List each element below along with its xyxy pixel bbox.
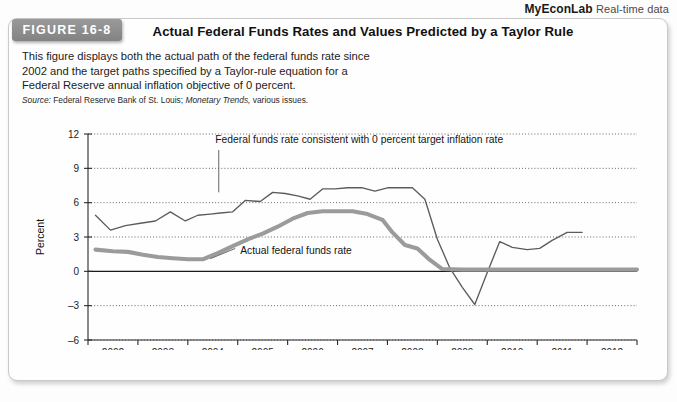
x-tick-label-2010: 2010: [501, 347, 524, 350]
gridlines: [88, 134, 637, 340]
source-text-b: various issues.: [253, 95, 308, 105]
figure-description: This figure displays both the actual pat…: [22, 49, 442, 93]
x-tick-label-2005: 2005: [252, 347, 275, 350]
figure-page: MyEconLab Real-time data FIGURE 16-8 Act…: [0, 0, 677, 402]
myeconlab-brand: MyEconLab: [525, 2, 593, 16]
x-tick-label-2007: 2007: [351, 347, 374, 350]
x-tick-label-2006: 2006: [301, 347, 324, 350]
x-tick-label-2002: 2002: [102, 347, 125, 350]
description-line-2: 2002 and the target paths specified by a…: [22, 64, 442, 79]
annotation-taylor-rule-label: Federal funds rate consistent with 0 per…: [215, 134, 503, 145]
myeconlab-realtime-label: Real-time data: [596, 3, 669, 15]
source-text-a: Federal Reserve Bank of St. Louis;: [53, 95, 183, 105]
myeconlab-label: MyEconLab Real-time data: [525, 2, 669, 16]
series-actual-federal-funds-rate: [95, 211, 637, 269]
x-tick-label-2008: 2008: [401, 347, 424, 350]
figure-number-badge: FIGURE 16-8: [12, 19, 122, 41]
y-tick-label-9: 9: [73, 163, 79, 174]
x-tick-label-2009: 2009: [451, 347, 474, 350]
annotation-actual-rate-label: Actual federal funds rate: [240, 245, 352, 256]
line-chart: Federal funds rate consistent with 0 per…: [26, 118, 644, 350]
data-series: [95, 188, 637, 305]
y-tick-label--6: –6: [68, 335, 80, 346]
figure-source: Source: Federal Reserve Bank of St. Loui…: [22, 95, 308, 105]
y-tick-label-3: 3: [73, 232, 79, 243]
y-axis-title: Percent: [34, 219, 46, 255]
axis-labels: 129630–3–6200220032004200520062007200820…: [34, 129, 644, 350]
x-tick-label-2004: 2004: [202, 347, 225, 350]
figure-title: Actual Federal Funds Rates and Values Pr…: [128, 24, 598, 39]
description-line-1: This figure displays both the actual pat…: [22, 49, 442, 64]
x-tick-label-2012: 2012: [601, 347, 624, 350]
y-tick-label--3: –3: [68, 300, 80, 311]
y-tick-label-0: 0: [73, 266, 79, 277]
x-tick-label-2003: 2003: [152, 347, 175, 350]
description-line-3: Federal Reserve annual inflation objecti…: [22, 78, 442, 93]
y-tick-label-6: 6: [73, 197, 79, 208]
figure-number-text: FIGURE 16-8: [23, 23, 112, 37]
source-text-italic: Monetary Trends,: [185, 95, 250, 105]
y-tick-label-12: 12: [68, 129, 80, 140]
x-tick-label-2011: 2011: [551, 347, 573, 350]
source-label: Source:: [22, 95, 51, 105]
chart-area: Federal funds rate consistent with 0 per…: [26, 118, 644, 350]
chart-annotations: Federal funds rate consistent with 0 per…: [210, 134, 503, 259]
